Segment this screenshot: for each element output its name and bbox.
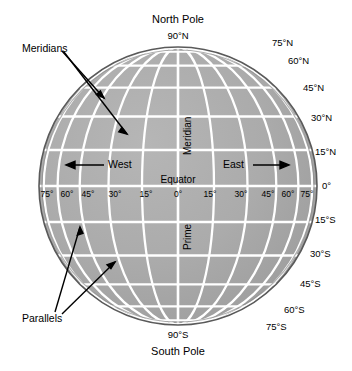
longitude-label-45e: 45°: [262, 190, 275, 199]
latitude-label-30s: 30°S: [310, 249, 331, 259]
longitude-label-60w: 60°: [61, 190, 74, 199]
longitude-label-60e: 60°: [282, 190, 295, 199]
longitude-label-15e: 15°: [204, 190, 217, 199]
west-direction-label: West: [108, 159, 132, 170]
graticule-grid: [39, 47, 317, 325]
north-pole-value: 90°N: [167, 31, 188, 41]
globe-diagram-figure: North Pole 90°N 90°S South Pole 75°N 60°…: [0, 0, 352, 371]
south-pole-label: South Pole: [151, 346, 205, 357]
latitude-label-45s: 45°S: [300, 279, 321, 289]
latitude-label-75s: 75°S: [266, 322, 287, 332]
latitude-label-30n: 30°N: [311, 113, 332, 123]
longitude-label-75e: 75°: [301, 190, 314, 199]
latitude-label-0: 0°: [322, 181, 331, 191]
meridian-label: Meridian: [183, 117, 193, 155]
latitude-label-60n: 60°N: [288, 56, 309, 66]
longitude-label-45w: 45°: [82, 190, 95, 199]
longitude-label-75w: 75°: [41, 190, 54, 199]
east-direction-label: East: [223, 159, 244, 170]
prime-label: Prime: [183, 224, 193, 250]
equator-label: Equator: [160, 175, 195, 185]
longitude-label-0: 0°: [174, 190, 182, 199]
south-pole-value: 90°S: [168, 330, 189, 340]
latitude-label-15s: 15°S: [315, 215, 336, 225]
longitude-label-15w: 15°: [140, 190, 153, 199]
north-pole-label: North Pole: [152, 14, 204, 25]
latitude-label-45n: 45°N: [303, 83, 324, 93]
latitude-label-60s: 60°S: [284, 305, 305, 315]
meridians-annotation-label: Meridians: [22, 43, 68, 54]
longitude-label-30w: 30°: [109, 190, 122, 199]
latitude-label-75n: 75°N: [272, 38, 293, 48]
latitude-label-15n: 15°N: [315, 147, 336, 157]
parallels-annotation-label: Parallels: [22, 313, 62, 324]
longitude-label-30e: 30°: [235, 190, 248, 199]
